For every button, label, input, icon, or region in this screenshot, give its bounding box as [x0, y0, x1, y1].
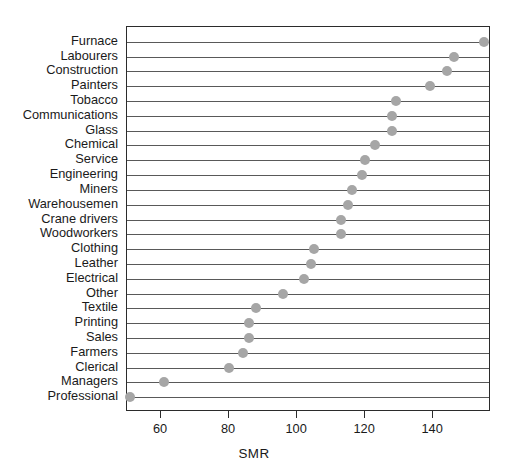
- row-guide-line: [127, 308, 489, 309]
- x-axis-tick-label: 80: [221, 423, 235, 436]
- x-axis-tick: [228, 411, 229, 418]
- row-guide-line: [127, 131, 489, 132]
- row-guide-line: [127, 323, 489, 324]
- data-point[interactable]: [425, 81, 435, 91]
- y-axis-tick-label: Printing: [75, 316, 118, 329]
- data-point[interactable]: [278, 289, 288, 299]
- data-point[interactable]: [449, 52, 459, 62]
- y-axis-tick-label: Painters: [71, 79, 118, 92]
- row-guide-line: [127, 71, 489, 72]
- y-axis-tick-label: Chemical: [65, 138, 118, 151]
- data-point[interactable]: [360, 155, 370, 165]
- y-axis-tick-label: Woodworkers: [40, 227, 118, 240]
- row-guide-line: [127, 57, 489, 58]
- data-point[interactable]: [391, 96, 401, 106]
- row-guide-line: [127, 145, 489, 146]
- y-axis-tick-label: Labourers: [60, 49, 118, 62]
- row-guide-line: [127, 220, 489, 221]
- data-point[interactable]: [336, 229, 346, 239]
- x-axis-tick-label: 60: [153, 423, 167, 436]
- x-axis-tick-label: 100: [285, 423, 306, 436]
- y-axis-category-labels: FurnaceLabourersConstructionPaintersToba…: [0, 26, 126, 411]
- row-guide-line: [127, 190, 489, 191]
- data-point[interactable]: [387, 126, 397, 136]
- data-point[interactable]: [336, 215, 346, 225]
- y-axis-tick-label: Tobacco: [70, 94, 118, 107]
- row-guide-line: [127, 234, 489, 235]
- row-guide-line: [127, 382, 489, 383]
- data-point[interactable]: [479, 37, 489, 47]
- y-axis-tick-label: Crane drivers: [41, 212, 118, 225]
- data-point[interactable]: [347, 185, 357, 195]
- row-guide-line: [127, 353, 489, 354]
- data-point[interactable]: [387, 111, 397, 121]
- y-axis-tick-label: Clothing: [71, 242, 118, 255]
- y-axis-tick-label: Other: [86, 286, 118, 299]
- y-axis-tick-label: Furnace: [71, 34, 118, 47]
- y-axis-tick-label: Electrical: [66, 271, 118, 284]
- x-axis-tick: [432, 411, 433, 418]
- row-guide-line: [127, 101, 489, 102]
- y-axis-tick-label: Sales: [86, 331, 118, 344]
- x-axis-tick-label: 120: [353, 423, 374, 436]
- y-axis-tick-label: Clerical: [75, 360, 118, 373]
- row-guide-line: [127, 338, 489, 339]
- y-axis-tick-label: Farmers: [70, 345, 118, 358]
- data-point[interactable]: [244, 318, 254, 328]
- row-guide-line: [127, 294, 489, 295]
- row-guide-line: [127, 42, 489, 43]
- y-axis-tick-label: Professional: [48, 390, 118, 403]
- y-axis-tick-label: Engineering: [50, 168, 118, 181]
- y-axis-tick-label: Service: [75, 153, 118, 166]
- row-guide-line: [127, 368, 489, 369]
- x-axis-tick: [364, 411, 365, 418]
- x-axis-tick: [296, 411, 297, 418]
- row-guide-line: [127, 175, 489, 176]
- data-point[interactable]: [370, 140, 380, 150]
- data-point[interactable]: [238, 348, 248, 358]
- dot-plot-figure: FurnaceLabourersConstructionPaintersToba…: [0, 0, 508, 474]
- data-point[interactable]: [251, 303, 261, 313]
- y-axis-tick-label: Miners: [80, 182, 118, 195]
- plot-area: [126, 26, 490, 411]
- row-guide-line: [127, 205, 489, 206]
- x-axis-tick-label: 140: [421, 423, 442, 436]
- y-axis-tick-label: Glass: [85, 123, 118, 136]
- row-guide-line: [127, 397, 489, 398]
- row-guide-line: [127, 249, 489, 250]
- y-axis-tick-label: Textile: [82, 301, 118, 314]
- data-point[interactable]: [343, 200, 353, 210]
- x-axis-tick: [160, 411, 161, 418]
- y-axis-tick-label: Leather: [75, 257, 118, 270]
- data-point[interactable]: [309, 244, 319, 254]
- data-point[interactable]: [299, 274, 309, 284]
- y-axis-tick-label: Construction: [46, 64, 118, 77]
- y-axis-tick-label: Warehousemen: [28, 197, 118, 210]
- data-point[interactable]: [306, 259, 316, 269]
- data-point[interactable]: [159, 377, 169, 387]
- data-point[interactable]: [125, 392, 135, 402]
- y-axis-tick-label: Communications: [23, 108, 118, 121]
- data-point[interactable]: [224, 363, 234, 373]
- row-guide-line: [127, 160, 489, 161]
- y-axis-tick-label: Managers: [61, 375, 118, 388]
- x-axis-title: SMR: [0, 446, 508, 461]
- data-point[interactable]: [357, 170, 367, 180]
- x-axis: 6080100120140: [126, 411, 490, 471]
- data-point[interactable]: [244, 333, 254, 343]
- data-point[interactable]: [442, 66, 452, 76]
- row-guide-line: [127, 116, 489, 117]
